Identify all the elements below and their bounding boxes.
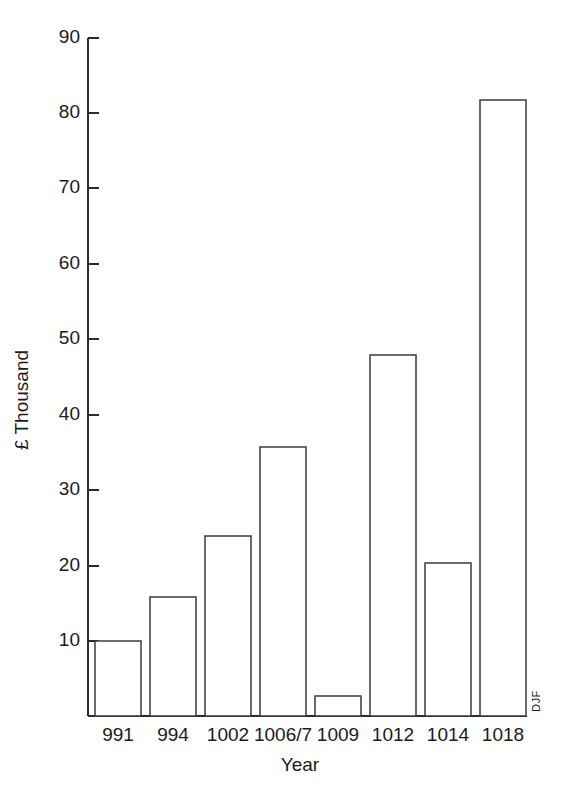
bar-1012 xyxy=(370,355,416,716)
y-tick-label-10: 10 xyxy=(59,629,80,650)
x-tick-labels: 991 994 1002 1006/7 1009 1012 1014 1018 xyxy=(102,724,524,745)
credit-label: DJF xyxy=(530,690,542,712)
bar-1014 xyxy=(425,563,471,716)
x-tick-label-7: 1018 xyxy=(482,724,524,745)
x-tick-label-0: 991 xyxy=(102,724,134,745)
x-tick-label-6: 1014 xyxy=(427,724,470,745)
bars-group xyxy=(95,100,526,716)
chart-svg: 90 80 70 60 50 40 30 20 10 £ Thousand 99… xyxy=(0,0,567,795)
x-tick-label-3: 1006/7 xyxy=(254,724,312,745)
bar-1006-7 xyxy=(260,447,306,716)
y-tick-label-60: 60 xyxy=(59,252,80,273)
y-tick-label-30: 30 xyxy=(59,478,80,499)
y-tick-label-90: 90 xyxy=(59,26,80,47)
bar-chart: 90 80 70 60 50 40 30 20 10 £ Thousand 99… xyxy=(0,0,567,795)
y-tick-label-20: 20 xyxy=(59,554,80,575)
bar-994 xyxy=(150,597,196,716)
x-tick-label-1: 994 xyxy=(157,724,189,745)
y-tick-label-80: 80 xyxy=(59,101,80,122)
bar-1018 xyxy=(480,100,526,716)
x-tick-label-4: 1009 xyxy=(317,724,359,745)
bar-991 xyxy=(95,641,141,716)
x-tick-label-5: 1012 xyxy=(372,724,414,745)
bar-1009 xyxy=(315,696,361,716)
y-tick-label-40: 40 xyxy=(59,403,80,424)
x-tick-label-2: 1002 xyxy=(207,724,249,745)
y-tick-labels: 90 80 70 60 50 40 30 20 10 xyxy=(59,26,80,650)
x-axis-title: Year xyxy=(281,754,320,775)
y-tick-label-50: 50 xyxy=(59,327,80,348)
y-axis-title: £ Thousand xyxy=(11,350,32,450)
y-tick-label-70: 70 xyxy=(59,176,80,197)
bar-1002 xyxy=(205,536,251,716)
y-tick-group xyxy=(88,38,99,641)
